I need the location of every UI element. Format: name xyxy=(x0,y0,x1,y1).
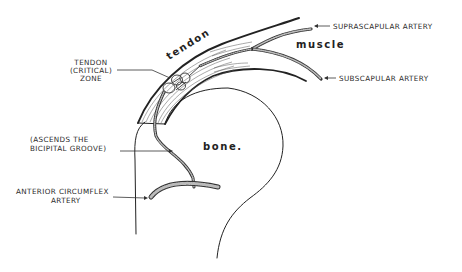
subscapular-arrowhead xyxy=(324,76,328,80)
anterior-circumflex-artery xyxy=(151,183,218,197)
bicipital-label-line2: BICIPITAL GROOVE) xyxy=(30,144,107,153)
critical-zone-label-line3: ZONE xyxy=(80,74,102,83)
humeral-head-outline xyxy=(165,88,283,258)
tendon-inner-edge xyxy=(165,69,306,124)
bicipital-label-line1: (ASCENDS THE xyxy=(30,135,89,144)
muscle-region-label: muscle xyxy=(296,39,345,50)
tendon-region-label: tendon xyxy=(164,26,212,62)
tendon-fibers xyxy=(142,42,252,123)
bone-region-label: bone. xyxy=(203,141,243,152)
anterior-circumflex-arrowhead xyxy=(144,196,148,200)
critical-zone-pointer xyxy=(117,70,170,78)
anterior-circumflex-label-line1: ANTERIOR CIRCUMFLEX xyxy=(16,187,109,196)
suprascapular-arrowhead xyxy=(314,24,318,28)
anterior-circumflex-pointer xyxy=(113,197,145,198)
subscapular-artery xyxy=(252,49,321,79)
suprascapular-label: SUPRASCAPULAR ARTERY xyxy=(333,22,433,31)
diagram-canvas: tendon muscle bone. TENDON (CRITICAL) ZO… xyxy=(0,0,462,272)
humerus-outline xyxy=(135,122,145,234)
subscapular-label: SUBSCAPULAR ARTERY xyxy=(339,74,429,83)
shoulder-anatomy-diagram: tendon muscle bone. TENDON (CRITICAL) ZO… xyxy=(0,0,462,272)
anterior-circumflex-label-line2: ARTERY xyxy=(51,196,81,205)
